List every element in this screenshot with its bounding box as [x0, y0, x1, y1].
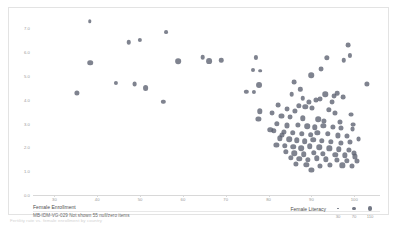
scatter-point[interactable] [310, 137, 316, 143]
scatter-point[interactable] [285, 107, 290, 112]
scatter-point[interactable] [256, 116, 261, 121]
scatter-point[interactable] [321, 123, 326, 128]
scatter-point[interactable] [88, 60, 94, 66]
scatter-point[interactable] [290, 130, 296, 136]
scatter-point[interactable] [301, 151, 307, 157]
scatter-point[interactable] [318, 66, 323, 71]
scatter-point[interactable] [143, 85, 149, 91]
scatter-point[interactable] [338, 140, 343, 145]
scatter-point[interactable] [88, 19, 91, 22]
scatter-point[interactable] [175, 58, 181, 64]
scatter-point[interactable] [254, 55, 258, 59]
scatter-point[interactable] [311, 150, 316, 155]
scatter-point[interactable] [335, 158, 340, 163]
scatter-point[interactable] [299, 131, 304, 136]
scatter-point[interactable] [339, 126, 344, 131]
scatter-point[interactable] [351, 122, 356, 127]
scatter-point[interactable] [292, 80, 297, 85]
scatter-point[interactable] [309, 168, 314, 173]
scatter-point[interactable] [318, 97, 323, 102]
scatter-point[interactable] [298, 145, 304, 151]
scatter-point[interactable] [283, 149, 288, 154]
scatter-point[interactable] [350, 127, 355, 132]
scatter-point[interactable] [126, 40, 130, 44]
scatter-point[interactable] [288, 115, 293, 120]
scatter-point[interactable] [300, 116, 305, 121]
legend-size-item[interactable]: 110 [362, 203, 378, 219]
scatter-point[interactable] [280, 132, 285, 137]
scatter-point[interactable] [288, 155, 293, 160]
scatter-point[interactable] [161, 100, 165, 104]
scatter-point[interactable] [258, 69, 262, 73]
scatter-point[interactable] [330, 124, 335, 129]
scatter-point[interactable] [327, 146, 332, 151]
scatter-point[interactable] [289, 92, 294, 97]
scatter-point[interactable] [312, 125, 317, 130]
scatter-point[interactable] [301, 96, 305, 100]
scatter-point[interactable] [354, 158, 359, 163]
scatter-point[interactable] [276, 103, 281, 108]
scatter-point[interactable] [365, 81, 370, 86]
scatter-point[interactable] [251, 68, 255, 72]
scatter-point[interactable] [219, 58, 223, 62]
scatter-point[interactable] [341, 95, 346, 100]
scatter-point[interactable] [293, 109, 298, 114]
scatter-point[interactable] [279, 114, 284, 119]
scatter-point[interactable] [304, 162, 309, 167]
scatter-point[interactable] [337, 119, 342, 124]
scatter-point[interactable] [329, 139, 334, 144]
scatter-point[interactable] [298, 87, 302, 91]
scatter-point[interactable] [326, 107, 331, 112]
scatter-point[interactable] [309, 72, 315, 78]
scatter-point[interactable] [294, 138, 299, 143]
scatter-point[interactable] [315, 130, 320, 135]
scatter-point[interactable] [346, 43, 351, 48]
scatter-points-layer[interactable] [33, 14, 380, 195]
scatter-point[interactable] [348, 53, 352, 57]
scatter-point[interactable] [284, 123, 289, 128]
scatter-point[interactable] [296, 103, 301, 108]
scatter-point[interactable] [340, 163, 345, 168]
scatter-point[interactable] [207, 58, 213, 64]
scatter-point[interactable] [347, 139, 352, 144]
scatter-point[interactable] [344, 159, 349, 164]
scatter-point[interactable] [342, 58, 346, 62]
scatter-point[interactable] [336, 147, 341, 152]
scatter-point[interactable] [304, 124, 310, 130]
scatter-point[interactable] [325, 131, 330, 136]
scatter-point[interactable] [356, 137, 361, 142]
scatter-point[interactable] [319, 138, 324, 143]
scatter-point[interactable] [275, 121, 280, 126]
scatter-point[interactable] [316, 145, 321, 150]
scatter-point[interactable] [74, 90, 79, 95]
scatter-point[interactable] [342, 153, 347, 158]
scatter-point[interactable] [335, 91, 340, 96]
scatter-point[interactable] [164, 30, 168, 34]
scatter-point[interactable] [293, 161, 298, 166]
scatter-point[interactable] [295, 122, 300, 127]
scatter-point[interactable] [297, 156, 302, 161]
scatter-point[interactable] [348, 112, 353, 117]
scatter-point[interactable] [138, 38, 142, 42]
scatter-point[interactable] [200, 55, 205, 60]
scatter-point[interactable] [324, 55, 329, 60]
plot-area[interactable] [33, 14, 380, 195]
scatter-point[interactable] [274, 142, 279, 147]
scatter-point[interactable] [291, 144, 297, 150]
scatter-point[interactable] [333, 152, 338, 157]
scatter-point[interactable] [328, 162, 333, 167]
scatter-point[interactable] [286, 136, 292, 142]
scatter-point[interactable] [256, 82, 262, 88]
scatter-point[interactable] [314, 156, 319, 161]
scatter-point[interactable] [332, 110, 337, 115]
scatter-point[interactable] [310, 106, 315, 111]
legend-size-item[interactable]: 30 [330, 203, 346, 219]
scatter-point[interactable] [282, 143, 287, 148]
scatter-point[interactable] [322, 92, 327, 97]
scatter-point[interactable] [270, 111, 275, 116]
scatter-point[interactable] [307, 144, 313, 150]
scatter-point[interactable] [316, 116, 322, 122]
scatter-point[interactable] [244, 90, 248, 94]
scatter-point[interactable] [317, 163, 322, 168]
scatter-point[interactable] [302, 138, 308, 144]
